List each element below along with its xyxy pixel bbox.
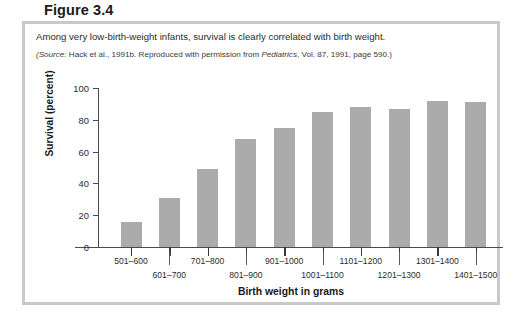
x-tick-label: 1001–1100 xyxy=(293,270,353,280)
y-tick-label: 60 xyxy=(43,146,89,157)
x-tick-mark xyxy=(208,247,209,256)
x-label-separator xyxy=(399,252,400,265)
y-tick-label: 40 xyxy=(43,178,89,189)
y-tick-mark xyxy=(93,88,98,89)
y-tick-label: 80 xyxy=(43,114,89,125)
bar xyxy=(235,139,256,247)
x-axis-line xyxy=(75,247,503,248)
y-tick-label: 20 xyxy=(43,210,89,221)
bar xyxy=(389,109,410,247)
bar xyxy=(274,128,295,247)
figure-inner-panel: Among very low-birth-weight infants, sur… xyxy=(25,24,497,302)
bar xyxy=(312,112,333,247)
x-tick-mark xyxy=(361,247,362,256)
x-label-separator xyxy=(246,252,247,265)
x-tick-label: 1101–1200 xyxy=(331,256,391,266)
x-label-separator xyxy=(476,252,477,265)
x-tick-label: 1401–1500 xyxy=(446,270,506,280)
bar xyxy=(427,101,448,247)
x-tick-label: 501–600 xyxy=(101,256,161,266)
bar xyxy=(121,222,142,247)
y-tick-mark xyxy=(93,215,98,216)
figure-label: Figure 3.4 xyxy=(44,2,114,18)
x-tick-mark xyxy=(437,247,438,256)
x-tick-label: 801–900 xyxy=(216,270,276,280)
x-tick-label: 701–800 xyxy=(178,256,238,266)
bar xyxy=(197,169,218,247)
y-tick-label: 100 xyxy=(43,83,89,94)
bar xyxy=(350,107,371,247)
x-tick-label: 1301–1400 xyxy=(407,256,467,266)
bar xyxy=(465,102,486,247)
x-label-separator xyxy=(323,252,324,265)
y-axis-line xyxy=(98,88,99,248)
x-axis-title: Birth weight in grams xyxy=(98,286,484,297)
bar-chart: Survival (percent) 020406080100 501–6006… xyxy=(25,24,503,308)
y-tick-mark xyxy=(93,152,98,153)
bar xyxy=(159,198,180,247)
x-label-separator xyxy=(169,252,170,265)
x-tick-label: 901–1000 xyxy=(254,256,314,266)
x-tick-mark xyxy=(131,247,132,256)
y-tick-mark xyxy=(93,120,98,121)
x-tick-mark xyxy=(284,247,285,256)
y-tick-mark xyxy=(93,247,98,248)
figure-frame: Among very low-birth-weight infants, sur… xyxy=(22,21,500,305)
x-tick-label: 1201–1300 xyxy=(369,270,429,280)
x-tick-label: 601–700 xyxy=(139,270,199,280)
y-tick-label: 0 xyxy=(43,242,89,253)
y-tick-mark xyxy=(93,183,98,184)
